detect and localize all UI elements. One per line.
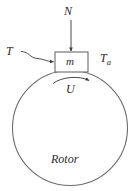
velocity-label: U	[66, 83, 75, 95]
mass-label: m	[66, 56, 74, 67]
aerodynamic-torque-subscript: a	[107, 57, 111, 67]
normal-force-label: N	[64, 5, 72, 17]
aerodynamic-torque-base: T	[100, 51, 107, 65]
torque-label: T	[6, 45, 13, 57]
rotor-label: Rotor	[51, 153, 78, 165]
torque-leader-line	[21, 52, 54, 62]
aerodynamic-torque-label: Ta	[100, 52, 111, 67]
rotor-free-body-diagram: N T Ta m U Rotor	[0, 0, 136, 191]
